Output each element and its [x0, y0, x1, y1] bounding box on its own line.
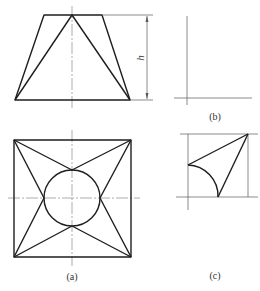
- top-view: [8, 130, 140, 266]
- dimension-label: h: [134, 55, 146, 61]
- dimension-h: h: [102, 15, 153, 100]
- star-left: [14, 140, 44, 257]
- view-a-label: (a): [66, 271, 77, 283]
- view-c-arc: [188, 165, 218, 197]
- star-bottom: [14, 226, 131, 257]
- view-b-label: (b): [209, 111, 221, 123]
- view-c-upper-edge: [188, 134, 248, 165]
- arrow-up-icon: [146, 16, 149, 22]
- front-view: [15, 6, 130, 110]
- star-top: [14, 140, 131, 170]
- star-right: [100, 140, 131, 257]
- view-c-right-edge: [218, 134, 248, 197]
- right-edge-line: [72, 15, 130, 100]
- left-edge-line: [15, 15, 72, 100]
- view-c-construction: [176, 134, 258, 210]
- view-c-label: (c): [209, 270, 220, 282]
- technical-drawing: h (a) (b) (c): [0, 0, 260, 291]
- arrow-down-icon: [146, 93, 149, 99]
- trapezoid-outline: [15, 15, 130, 100]
- square-outline: [14, 140, 131, 257]
- view-b-axes: [174, 16, 252, 105]
